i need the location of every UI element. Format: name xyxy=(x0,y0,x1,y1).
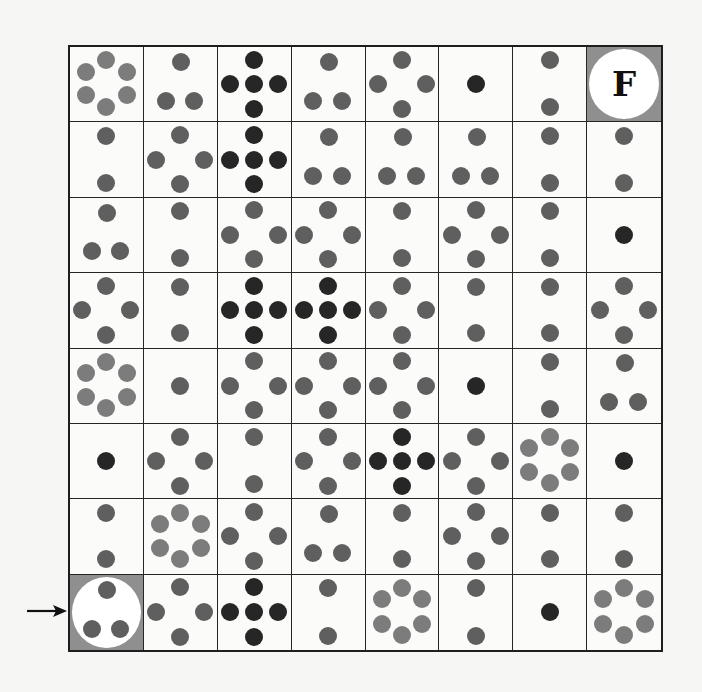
maze-cell-r8-c2[interactable] xyxy=(144,575,218,650)
maze-cell-r5-c4[interactable] xyxy=(292,349,366,424)
maze-cell-r7-c1[interactable] xyxy=(70,499,144,574)
maze-cell-r5-c3[interactable] xyxy=(218,349,292,424)
maze-cell-r1-c1[interactable] xyxy=(70,47,144,122)
maze-cell-r2-c6[interactable] xyxy=(439,122,513,197)
dot-icon xyxy=(319,579,337,597)
dot-icon xyxy=(636,615,654,633)
maze-cell-r8-c3[interactable] xyxy=(218,575,292,650)
maze-cell-r1-c3[interactable] xyxy=(218,47,292,122)
dot-icon xyxy=(269,301,287,319)
dot-icon xyxy=(304,167,322,185)
maze-cell-r7-c6[interactable] xyxy=(439,499,513,574)
maze-cell-r8-c7[interactable] xyxy=(513,575,587,650)
maze-cell-r2-c1[interactable] xyxy=(70,122,144,197)
dot-icon xyxy=(468,128,486,146)
dot-icon xyxy=(393,626,411,644)
dot-icon xyxy=(491,226,509,244)
dot-icon xyxy=(393,452,411,470)
maze-cell-r8-c5[interactable] xyxy=(366,575,440,650)
dot-icon xyxy=(77,63,95,81)
maze-cell-r4-c2[interactable] xyxy=(144,273,218,348)
maze-cell-r4-c1[interactable] xyxy=(70,273,144,348)
dot-icon xyxy=(319,277,337,295)
maze-cell-r7-c3[interactable] xyxy=(218,499,292,574)
maze-cell-r4-c3[interactable] xyxy=(218,273,292,348)
maze-cell-r5-c1[interactable] xyxy=(70,349,144,424)
maze-cell-r2-c3[interactable] xyxy=(218,122,292,197)
maze-cell-r7-c2[interactable] xyxy=(144,499,218,574)
maze-cell-r6-c2[interactable] xyxy=(144,424,218,499)
maze-cell-r2-c5[interactable] xyxy=(366,122,440,197)
dot-icon xyxy=(393,504,411,522)
start-cell[interactable] xyxy=(70,575,144,650)
maze-cell-r6-c4[interactable] xyxy=(292,424,366,499)
maze-cell-r4-c8[interactable] xyxy=(587,273,661,348)
maze-cell-r3-c4[interactable] xyxy=(292,198,366,273)
maze-cell-r1-c6[interactable] xyxy=(439,47,513,122)
maze-cell-r2-c2[interactable] xyxy=(144,122,218,197)
dot-icon xyxy=(245,51,263,69)
dot-icon xyxy=(171,550,189,568)
maze-cell-r1-c2[interactable] xyxy=(144,47,218,122)
maze-cell-r3-c1[interactable] xyxy=(70,198,144,273)
dot-icon xyxy=(97,452,115,470)
dot-icon xyxy=(393,352,411,370)
maze-cell-r7-c7[interactable] xyxy=(513,499,587,574)
dot-icon xyxy=(541,504,559,522)
dot-icon xyxy=(118,364,136,382)
maze-cell-r4-c4[interactable] xyxy=(292,273,366,348)
dot-icon xyxy=(171,278,189,296)
dot-icon xyxy=(245,628,263,646)
maze-cell-r6-c6[interactable] xyxy=(439,424,513,499)
maze-cell-r8-c4[interactable] xyxy=(292,575,366,650)
maze-cell-r5-c6[interactable] xyxy=(439,349,513,424)
dot-icon xyxy=(97,277,115,295)
dot-icon xyxy=(467,579,485,597)
dot-icon xyxy=(171,578,189,596)
dot-icon xyxy=(221,527,239,545)
maze-cell-r3-c8[interactable] xyxy=(587,198,661,273)
maze-cell-r5-c5[interactable] xyxy=(366,349,440,424)
dot-icon xyxy=(221,75,239,93)
maze-cell-r1-c5[interactable] xyxy=(366,47,440,122)
maze-cell-r5-c2[interactable] xyxy=(144,349,218,424)
maze-cell-r2-c4[interactable] xyxy=(292,122,366,197)
dot-icon xyxy=(192,515,210,533)
dot-icon xyxy=(320,505,338,523)
maze-cell-r7-c5[interactable] xyxy=(366,499,440,574)
dot-icon xyxy=(245,401,263,419)
maze-cell-r6-c7[interactable] xyxy=(513,424,587,499)
dot-icon xyxy=(319,401,337,419)
dot-icon xyxy=(77,388,95,406)
maze-cell-r3-c3[interactable] xyxy=(218,198,292,273)
maze-cell-r6-c5[interactable] xyxy=(366,424,440,499)
maze-cell-r5-c8[interactable] xyxy=(587,349,661,424)
dot-icon xyxy=(304,92,322,110)
maze-cell-r4-c7[interactable] xyxy=(513,273,587,348)
dot-icon xyxy=(369,75,387,93)
maze-cell-r7-c4[interactable] xyxy=(292,499,366,574)
maze-cell-r1-c7[interactable] xyxy=(513,47,587,122)
maze-cell-r4-c6[interactable] xyxy=(439,273,513,348)
dot-icon xyxy=(343,301,361,319)
maze-cell-r3-c2[interactable] xyxy=(144,198,218,273)
maze-cell-r4-c5[interactable] xyxy=(366,273,440,348)
dot-icon xyxy=(393,550,411,568)
dot-icon xyxy=(171,377,189,395)
maze-cell-r7-c8[interactable] xyxy=(587,499,661,574)
maze-cell-r6-c8[interactable] xyxy=(587,424,661,499)
dot-icon xyxy=(269,75,287,93)
maze-cell-r3-c5[interactable] xyxy=(366,198,440,273)
maze-cell-r8-c8[interactable] xyxy=(587,575,661,650)
maze-cell-r8-c6[interactable] xyxy=(439,575,513,650)
maze-cell-r2-c7[interactable] xyxy=(513,122,587,197)
finish-cell[interactable]: F xyxy=(587,47,661,122)
maze-cell-r2-c8[interactable] xyxy=(587,122,661,197)
maze-cell-r3-c7[interactable] xyxy=(513,198,587,273)
dot-icon xyxy=(443,226,461,244)
maze-cell-r1-c4[interactable] xyxy=(292,47,366,122)
maze-cell-r6-c3[interactable] xyxy=(218,424,292,499)
maze-cell-r3-c6[interactable] xyxy=(439,198,513,273)
maze-cell-r5-c7[interactable] xyxy=(513,349,587,424)
maze-cell-r6-c1[interactable] xyxy=(70,424,144,499)
